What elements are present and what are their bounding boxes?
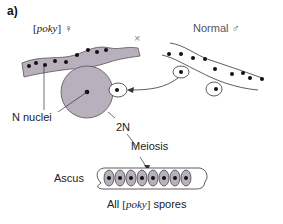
male-parent-label: Normal ♂	[193, 22, 240, 34]
female-symbol: ♀	[64, 22, 72, 34]
female-parent-label: [poky] ♀	[33, 22, 72, 34]
diploid-label: 2N	[116, 121, 130, 133]
ascus-label: Ascus	[54, 172, 84, 184]
cross-symbol: ×	[134, 32, 140, 44]
result-label: All [poky] spores	[107, 198, 186, 210]
meiosis-label: Meiosis	[131, 140, 168, 152]
n-nuclei-label: N nuclei	[12, 111, 52, 123]
panel-label: a)	[7, 4, 18, 18]
fertilization-arrow	[130, 78, 178, 90]
male-symbol: ♂	[232, 22, 240, 34]
strain-name: poky	[37, 22, 58, 34]
